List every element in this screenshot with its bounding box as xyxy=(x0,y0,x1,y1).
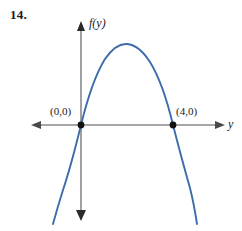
point-label-x-intercept: (4,0) xyxy=(176,105,197,117)
vertical-axis-down-arrow xyxy=(76,210,86,221)
parabola-graph xyxy=(0,0,242,231)
vertical-axis-label: f(y) xyxy=(89,16,106,31)
point-label-origin: (0,0) xyxy=(50,105,71,117)
horizontal-axis-left-arrow xyxy=(31,121,41,129)
horizontal-axis-right-arrow xyxy=(215,121,225,129)
parabola-curve xyxy=(53,44,197,224)
vertical-axis-up-arrow xyxy=(77,21,85,31)
horizontal-axis xyxy=(31,121,225,129)
figure-container: 14. f(y) y (0,0) (4,0) xyxy=(0,0,242,231)
point-marker-x-intercept xyxy=(170,122,177,129)
point-marker-origin xyxy=(78,122,85,129)
horizontal-axis-label: y xyxy=(228,117,233,132)
vertical-axis xyxy=(76,21,86,221)
